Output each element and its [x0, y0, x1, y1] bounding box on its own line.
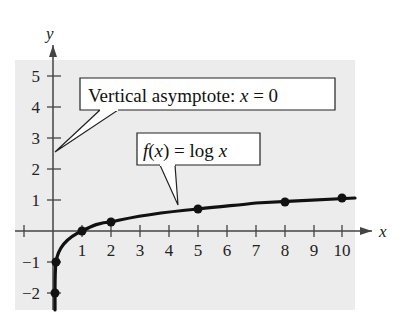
svg-text:6: 6 — [223, 241, 232, 260]
svg-text:10: 10 — [334, 241, 351, 260]
point-8-0.903 — [281, 198, 290, 207]
y-axis-arrow-icon — [49, 45, 57, 57]
log-graph: x y 1 2 3 4 5 6 7 8 9 10 1 2 — [0, 0, 405, 329]
svg-text:2: 2 — [107, 241, 116, 260]
svg-text:4: 4 — [165, 241, 174, 260]
point-0.01--2 — [51, 289, 60, 298]
x-axis-arrow-icon — [360, 227, 372, 235]
svg-text:−1: −1 — [22, 253, 40, 272]
svg-text:4: 4 — [32, 98, 41, 117]
point-0.1--1 — [52, 258, 61, 267]
point-1-0 — [78, 227, 87, 236]
svg-text:1: 1 — [32, 191, 41, 210]
svg-text:3: 3 — [136, 241, 145, 260]
x-axis-label: x — [378, 222, 387, 241]
svg-text:7: 7 — [252, 241, 261, 260]
svg-text:9: 9 — [310, 241, 319, 260]
asymptote-label: Vertical asymptote: x = 0 — [88, 85, 278, 106]
svg-text:5: 5 — [32, 67, 41, 86]
point-2-0.301 — [107, 218, 116, 227]
svg-text:8: 8 — [281, 241, 290, 260]
y-axis-label: y — [44, 24, 54, 43]
svg-text:3: 3 — [32, 129, 41, 148]
svg-text:−2: −2 — [22, 284, 40, 303]
svg-text:2: 2 — [32, 160, 41, 179]
function-label: f(x) = log x — [143, 140, 228, 162]
svg-text:1: 1 — [78, 241, 87, 260]
point-10-1 — [338, 194, 347, 203]
svg-text:5: 5 — [194, 241, 203, 260]
point-5-0.699 — [194, 205, 203, 214]
